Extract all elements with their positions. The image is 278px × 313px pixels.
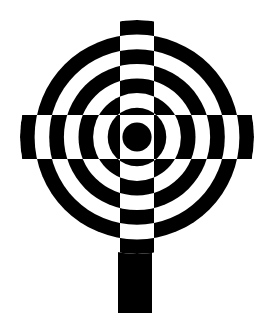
ring-1-core-x [122, 122, 151, 151]
checkerboard-target-graphic [0, 0, 278, 313]
figure-root [0, 0, 278, 313]
stem-group [118, 245, 152, 313]
stem-rect [118, 245, 152, 313]
